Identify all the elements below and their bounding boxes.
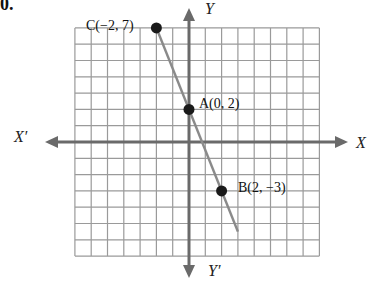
x-neg-arrow-icon [45,136,58,148]
x-neg-axis-label: X′ [14,128,27,146]
x-axis-label: X [356,134,366,152]
point-c-dot [151,22,162,33]
point-a-dot [184,104,195,115]
y-pos-arrow-icon [183,8,195,21]
line-through-points [156,28,238,232]
point-c-label: C(−2, 7) [86,18,134,34]
y-axis-label: Y [205,0,214,18]
point-b-label: B(2, −3) [238,180,286,196]
coordinate-plane [0,0,375,290]
point-a-label: A(0, 2) [199,96,239,112]
x-pos-arrow-icon [335,136,348,148]
y-neg-arrow-icon [183,265,195,278]
point-b-dot [216,185,227,196]
y-neg-axis-label: Y′ [208,262,220,280]
